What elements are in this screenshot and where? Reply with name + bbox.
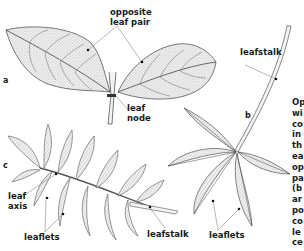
caption-text-cropped: Op wi co in th ea op pa (b ar po co le c… (292, 97, 304, 248)
panel-c-pinnate-leaf (8, 124, 178, 240)
label-opposite-leaf-pair: opposite leaf pair (110, 7, 152, 27)
label-leaf-node: leaf node (127, 103, 151, 123)
left-leaf (6, 27, 110, 92)
leaf-node-marker (107, 94, 116, 97)
petiole-c (130, 202, 178, 214)
label-leaflets-c: leaflets (24, 232, 60, 242)
leaflet-b4 (235, 153, 252, 226)
petiole-b (235, 26, 291, 152)
label-leaflets-b: leaflets (209, 230, 245, 240)
label-leaf-axis: leaf axis (8, 191, 27, 211)
panel-a-opposite-leaves (6, 26, 216, 124)
figure-letter-a: a (3, 76, 8, 85)
figure-letter-c: c (3, 161, 8, 170)
label-leafstalk-b: leafstalk (240, 47, 282, 57)
botanical-leaf-diagram (0, 0, 304, 251)
figure-letter-b: b (245, 111, 251, 120)
stem (108, 72, 116, 124)
right-leaf (118, 44, 216, 99)
label-leafstalk-c: leafstalk (147, 229, 189, 239)
